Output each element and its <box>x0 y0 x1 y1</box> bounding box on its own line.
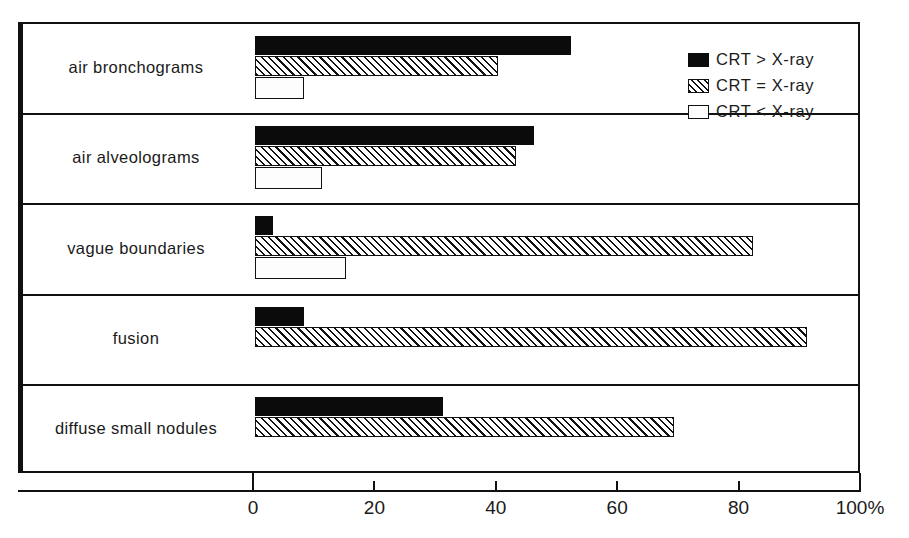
bar-crt-equal <box>255 146 516 166</box>
category-label: fusion <box>20 329 252 348</box>
bar-crt-greater <box>255 126 534 145</box>
bar-crt-equal <box>255 327 807 347</box>
legend-item: CRT = X-ray <box>688 76 814 95</box>
bar-crt-equal <box>255 236 753 256</box>
hatched-swatch-icon <box>688 79 709 93</box>
x-axis-tick-label: 40 <box>485 497 506 519</box>
bar-crt-equal <box>255 417 674 437</box>
category-label: air alveolograms <box>20 148 252 167</box>
x-axis-tick <box>252 473 254 492</box>
category-label: air bronchograms <box>20 58 252 77</box>
legend-label: CRT > X-ray <box>716 50 814 69</box>
x-axis-tick-label: 0 <box>248 497 259 519</box>
legend-label: CRT = X-ray <box>716 76 814 95</box>
x-axis-tick <box>495 481 497 492</box>
x-axis-line <box>18 490 860 492</box>
dotted-swatch-icon <box>688 105 709 119</box>
bar-crt-greater <box>255 216 273 235</box>
bar-crt-greater <box>255 307 304 326</box>
row-separator <box>20 203 858 205</box>
row-separator <box>20 294 858 296</box>
x-axis-tick-label: 60 <box>607 497 628 519</box>
x-axis-tick-label: 100% <box>836 497 885 519</box>
bar-crt-equal <box>255 56 498 76</box>
x-axis-tick-label: 80 <box>728 497 749 519</box>
legend-label: CRT < X-ray <box>716 102 814 121</box>
x-axis-tick <box>373 481 375 492</box>
legend-item: CRT > X-ray <box>688 50 814 69</box>
solid-black-swatch-icon <box>688 53 709 67</box>
bar-crt-greater <box>255 397 443 416</box>
x-axis-tick <box>859 473 861 492</box>
chart-legend: CRT > X-rayCRT = X-rayCRT < X-ray <box>688 50 814 121</box>
x-axis-tick <box>616 481 618 492</box>
bar-crt-less <box>255 77 304 99</box>
bar-chart-figure: air bronchogramsair alveologramsvague bo… <box>0 0 909 538</box>
category-label: diffuse small nodules <box>20 419 252 438</box>
category-label: vague boundaries <box>20 239 252 258</box>
bar-crt-greater <box>255 36 571 55</box>
row-separator <box>20 384 858 386</box>
x-axis-tick-label: 20 <box>364 497 385 519</box>
legend-item: CRT < X-ray <box>688 102 814 121</box>
x-axis-tick <box>738 481 740 492</box>
bar-crt-less <box>255 257 346 279</box>
bar-crt-less <box>255 167 322 189</box>
